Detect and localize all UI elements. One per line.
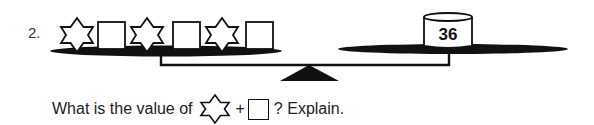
square-icon: [173, 22, 200, 49]
square-icon: [248, 99, 269, 120]
plus-sign: +: [236, 100, 245, 118]
question-text: What is the value of + ? Explain.: [52, 94, 344, 124]
square-icon: [246, 22, 273, 49]
question-suffix: ? Explain.: [274, 100, 344, 118]
star-icon: [199, 94, 231, 124]
square-icon: [98, 22, 125, 49]
fulcrum-triangle: [280, 65, 339, 81]
star-icon: [61, 18, 93, 52]
question-prefix: What is the value of: [52, 100, 193, 118]
cylinder-label: 36: [439, 25, 458, 44]
